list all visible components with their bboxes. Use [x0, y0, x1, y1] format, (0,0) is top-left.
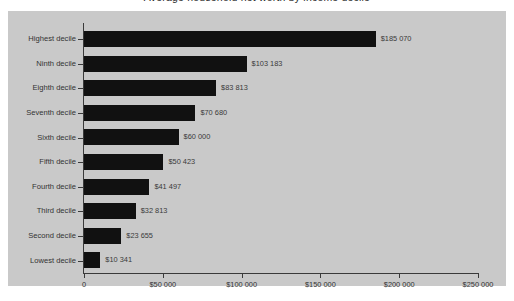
- bar[interactable]: [84, 203, 136, 219]
- y-axis-label: Eighth decile: [10, 83, 76, 92]
- y-axis-label: Lowest decile: [10, 256, 76, 265]
- bar-value-label: $103 183: [252, 57, 283, 71]
- y-axis-label: Seventh decile: [10, 108, 76, 117]
- y-axis-tick: [78, 88, 83, 89]
- bar-row: $60 000Sixth decile: [84, 125, 478, 150]
- bar[interactable]: [84, 129, 179, 145]
- bar-value-label: $50 423: [168, 155, 195, 169]
- bar[interactable]: [84, 252, 100, 268]
- bar-row: $50 423Fifth decile: [84, 150, 478, 175]
- bar[interactable]: [84, 154, 163, 170]
- bar[interactable]: [84, 105, 195, 121]
- bar-row: $32 813Third decile: [84, 199, 478, 224]
- x-axis-tick: [399, 273, 400, 278]
- y-axis-tick: [78, 261, 83, 262]
- bar-value-label: $41 497: [154, 180, 181, 194]
- y-axis-tick: [78, 138, 83, 139]
- y-axis-label: Fifth decile: [10, 157, 76, 166]
- x-axis-tick-label: $50 000: [149, 280, 176, 289]
- bar-row: $83 813Eighth decile: [84, 76, 478, 101]
- x-axis-tick: [242, 273, 243, 278]
- y-axis-label: Second decile: [10, 231, 76, 240]
- bar-value-label: $185 070: [381, 32, 412, 46]
- bar-value-label: $10 341: [105, 253, 132, 267]
- bar-row: $70 680Seventh decile: [84, 101, 478, 126]
- x-axis-tick-label: $100 000: [226, 280, 257, 289]
- y-axis-tick: [78, 64, 83, 65]
- bar-row: $185 070Highest decile: [84, 27, 478, 52]
- bar-value-label: $32 813: [141, 204, 168, 218]
- bar[interactable]: [84, 80, 216, 96]
- y-axis-tick: [78, 236, 83, 237]
- chart-title-clipped: Average household net worth by income de…: [0, 0, 514, 11]
- x-axis-tick: [163, 273, 164, 278]
- y-axis-label: Fourth decile: [10, 182, 76, 191]
- x-axis-tick-label: 0: [82, 280, 86, 289]
- chart-title: Average household net worth by income de…: [0, 0, 514, 3]
- chart-panel: $185 070Highest decile$103 183Ninth deci…: [8, 11, 506, 286]
- x-axis-tick: [84, 273, 85, 278]
- y-axis-tick: [78, 162, 83, 163]
- x-axis-tick: [478, 273, 479, 278]
- y-axis-label: Third decile: [10, 206, 76, 215]
- bar-row: $23 655Second decile: [84, 224, 478, 249]
- x-axis-tick-label: $150 000: [305, 280, 336, 289]
- bar-value-label: $60 000: [184, 130, 211, 144]
- bar[interactable]: [84, 179, 149, 195]
- plot-area: $185 070Highest decile$103 183Ninth deci…: [84, 27, 478, 273]
- bar[interactable]: [84, 56, 247, 72]
- y-axis-label: Highest decile: [10, 34, 76, 43]
- bar-row: $10 341Lowest decile: [84, 248, 478, 273]
- y-axis-tick: [78, 211, 83, 212]
- y-axis-tick: [78, 113, 83, 114]
- x-axis-tick-label: $200 000: [384, 280, 415, 289]
- y-axis-label: Ninth decile: [10, 59, 76, 68]
- bar-value-label: $23 655: [126, 229, 153, 243]
- chart-figure: Average household net worth by income de…: [0, 0, 514, 301]
- bar-value-label: $83 813: [221, 81, 248, 95]
- bar[interactable]: [84, 31, 376, 47]
- y-axis-tick: [78, 187, 83, 188]
- x-axis-tick: [320, 273, 321, 278]
- bar-row: $103 183Ninth decile: [84, 52, 478, 77]
- bar-value-label: $70 680: [200, 106, 227, 120]
- x-axis-tick-label: $250 000: [463, 280, 494, 289]
- x-axis-line: [83, 273, 479, 274]
- y-axis-label: Sixth decile: [10, 133, 76, 142]
- bar[interactable]: [84, 228, 121, 244]
- bar-row: $41 497Fourth decile: [84, 175, 478, 200]
- y-axis-tick: [78, 39, 83, 40]
